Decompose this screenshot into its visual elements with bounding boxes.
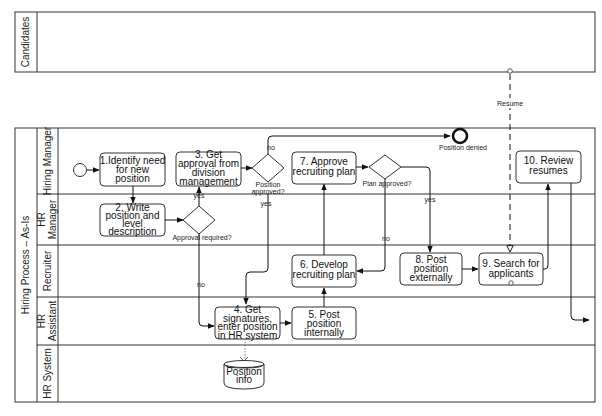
task-6-develop-recruiting-plan[interactable]: 6. Develop recruiting plan — [292, 255, 356, 287]
flow-label-no: no — [382, 235, 390, 242]
svg-text:recruiting plan: recruiting plan — [293, 166, 356, 177]
svg-text:description: description — [108, 226, 156, 237]
svg-text:info: info — [236, 374, 253, 385]
svg-text:position: position — [115, 173, 149, 184]
gateway-position-approved-label-line1: Position — [256, 181, 281, 188]
flow-label-yes: yes — [425, 196, 436, 204]
lane-label-recruiter: Recruiter — [42, 250, 53, 291]
candidates-pool: Candidates — [15, 12, 595, 72]
candidates-pool-label: Candidates — [20, 17, 31, 68]
task-4-get-signatures[interactable]: 4. Get signatures, enter position in HR … — [215, 304, 280, 341]
end-event-icon[interactable] — [453, 129, 467, 143]
lane-label-hr-assistant-line1: HR — [36, 314, 47, 328]
flow-label-no: no — [267, 144, 275, 151]
gateway-position-approved[interactable] — [252, 154, 284, 182]
flow-label-yes: yes — [261, 200, 272, 208]
task-2-write-position[interactable]: 2. Write position and level description — [100, 202, 165, 237]
loop-marker-icon — [509, 281, 513, 285]
task-10-review-resumes[interactable]: 10. Review resumes — [516, 151, 581, 183]
svg-text:in HR system: in HR system — [218, 330, 277, 341]
gateway-plan-approved[interactable] — [369, 155, 401, 179]
svg-text:internally: internally — [304, 327, 344, 338]
task-8-post-externally[interactable]: 8. Post position externally — [400, 253, 462, 285]
task-1-identify-need[interactable]: 1.Identify need for new position — [100, 153, 166, 186]
task-9-search-for-applicants[interactable]: 9. Search for applicants — [479, 253, 543, 285]
svg-text:externally: externally — [410, 272, 453, 283]
svg-text:resumes: resumes — [529, 165, 567, 176]
lane-label-hiring-manager: Hiring Manager — [42, 126, 53, 195]
end-event-label: Position denied — [439, 144, 487, 151]
bpmn-diagram: Candidates Hiring Process – As-Is Hiring… — [0, 0, 602, 416]
task-5-post-internally[interactable]: 5. Post position internally — [292, 307, 356, 339]
message-flow-label: Resume — [497, 100, 523, 107]
pool-label: Hiring Process – As-Is — [20, 216, 31, 314]
start-event-icon[interactable] — [74, 164, 87, 177]
task-7-approve-recruiting-plan[interactable]: 7. Approve recruiting plan — [292, 152, 356, 184]
data-store-position-info[interactable]: Position info — [224, 357, 264, 389]
svg-text:management: management — [179, 176, 238, 187]
lane-label-hr-system: HR System — [42, 348, 53, 399]
task-3-get-approval[interactable]: 3. Get approval from division management — [176, 149, 241, 187]
gateway-plan-approved-label: Plan approved? — [362, 180, 411, 188]
svg-text:applicants: applicants — [488, 268, 533, 279]
lane-label-hr-manager-line2: Manager — [47, 199, 58, 239]
gateway-approval-required-label: Approval required? — [172, 234, 231, 242]
lane-label-hr-manager-line1: HR — [36, 212, 47, 226]
svg-text:recruiting plan: recruiting plan — [293, 269, 356, 280]
gateway-approval-required[interactable] — [183, 206, 215, 234]
flow-label-no: no — [197, 281, 205, 288]
flow-label-yes: yes — [194, 192, 205, 200]
lane-label-hr-assistant-line2: Assistant — [47, 300, 58, 341]
